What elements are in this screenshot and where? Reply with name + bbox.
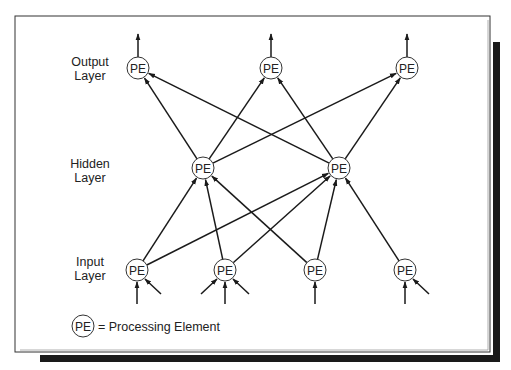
pe-label: PE — [331, 162, 347, 176]
frame-shadow-bottom — [40, 355, 500, 362]
output-layer-label-line2: Layer — [74, 69, 105, 83]
input-layer-label-line1: Input — [76, 255, 104, 269]
pe-label: PE — [195, 162, 211, 176]
pe-label: PE — [399, 62, 415, 76]
frame-shadow-right — [493, 42, 500, 362]
legend-text: = Processing Element — [98, 320, 220, 334]
pe-node-I2: PE — [214, 259, 236, 281]
hidden-layer-label-line1: Hidden — [70, 157, 110, 171]
pe-label: PE — [129, 264, 145, 278]
pe-node-H2: PE — [328, 157, 350, 179]
pe-label: PE — [263, 62, 279, 76]
output-layer-label-line1: Output — [71, 55, 109, 69]
pe-node-I1: PE — [126, 259, 148, 281]
hidden-layer-label-line2: Layer — [74, 171, 105, 185]
neural-network-diagram: PEPEPEPEPEPEPEPEPE Output Layer Hidden L… — [0, 0, 511, 370]
pe-node-O3: PE — [396, 57, 418, 79]
pe-label: PE — [397, 264, 413, 278]
pe-node-I4: PE — [394, 259, 416, 281]
legend-pe-symbol: PE — [75, 320, 91, 334]
pe-node-H1: PE — [192, 157, 214, 179]
input-layer-label-line2: Layer — [74, 269, 105, 283]
pe-label: PE — [130, 62, 146, 76]
pe-label: PE — [217, 264, 233, 278]
pe-node-I3: PE — [304, 259, 326, 281]
pe-label: PE — [307, 264, 323, 278]
pe-node-O1: PE — [127, 57, 149, 79]
pe-node-O2: PE — [260, 57, 282, 79]
